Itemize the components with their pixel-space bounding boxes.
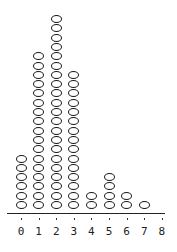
x-tick — [162, 218, 163, 220]
data-dot — [68, 136, 79, 144]
x-tick-label: 1 — [32, 225, 46, 238]
data-dot — [16, 201, 27, 209]
data-dot — [51, 145, 62, 153]
data-dot — [33, 192, 44, 200]
data-dot — [68, 127, 79, 135]
x-tick — [21, 218, 22, 220]
data-dot — [104, 182, 115, 190]
x-axis-line — [7, 213, 165, 214]
data-dot — [33, 71, 44, 79]
x-tick — [144, 218, 145, 220]
data-dot — [51, 24, 62, 32]
x-tick — [74, 218, 75, 220]
data-dot — [33, 127, 44, 135]
data-dot — [121, 192, 132, 200]
data-dot — [33, 80, 44, 88]
data-dot — [51, 136, 62, 144]
x-tick-label: 2 — [49, 225, 63, 238]
data-dot — [51, 192, 62, 200]
data-dot — [33, 155, 44, 163]
data-dot — [33, 201, 44, 209]
data-dot — [51, 155, 62, 163]
data-dot — [51, 182, 62, 190]
data-dot — [33, 145, 44, 153]
data-dot — [33, 117, 44, 125]
x-tick — [39, 218, 40, 220]
x-tick-label: 8 — [155, 225, 169, 238]
data-dot — [51, 99, 62, 107]
data-dot — [68, 145, 79, 153]
data-dot — [33, 62, 44, 70]
data-dot — [16, 173, 27, 181]
data-dot — [51, 108, 62, 116]
data-dot — [51, 15, 62, 23]
x-tick-label: 6 — [120, 225, 134, 238]
data-dot — [51, 71, 62, 79]
data-dot — [68, 99, 79, 107]
data-dot — [86, 201, 97, 209]
data-dot — [33, 89, 44, 97]
data-dot — [16, 155, 27, 163]
data-dot — [51, 80, 62, 88]
data-dot — [68, 192, 79, 200]
data-dot — [104, 201, 115, 209]
data-dot — [51, 52, 62, 60]
data-dot — [16, 182, 27, 190]
x-tick-label: 0 — [14, 225, 28, 238]
x-tick — [91, 218, 92, 220]
data-dot — [68, 80, 79, 88]
data-dot — [16, 192, 27, 200]
data-dot — [33, 182, 44, 190]
x-tick-label: 7 — [137, 225, 151, 238]
data-dot — [121, 201, 132, 209]
data-dot — [51, 117, 62, 125]
data-dot — [51, 43, 62, 51]
x-tick — [56, 218, 57, 220]
data-dot — [68, 201, 79, 209]
data-dot — [68, 182, 79, 190]
data-dot — [33, 173, 44, 181]
data-dot — [68, 117, 79, 125]
data-dot — [51, 127, 62, 135]
data-dot — [104, 173, 115, 181]
data-dot — [33, 164, 44, 172]
x-tick-label: 4 — [84, 225, 98, 238]
data-dot — [68, 155, 79, 163]
data-dot — [68, 71, 79, 79]
data-dot — [51, 62, 62, 70]
data-dot — [51, 201, 62, 209]
data-dot — [86, 192, 97, 200]
data-dot — [33, 99, 44, 107]
data-dot — [139, 201, 150, 209]
data-dot — [51, 173, 62, 181]
x-tick — [127, 218, 128, 220]
data-dot — [68, 164, 79, 172]
data-dot — [68, 89, 79, 97]
x-tick-label: 3 — [67, 225, 81, 238]
data-dot — [104, 192, 115, 200]
data-dot — [51, 89, 62, 97]
data-dot — [33, 108, 44, 116]
x-tick — [109, 218, 110, 220]
data-dot — [68, 108, 79, 116]
x-tick-label: 5 — [102, 225, 116, 238]
data-dot — [51, 164, 62, 172]
data-dot — [68, 173, 79, 181]
dot-plot: 012345678 — [0, 0, 177, 252]
data-dot — [16, 164, 27, 172]
data-dot — [51, 34, 62, 42]
data-dot — [33, 136, 44, 144]
data-dot — [33, 52, 44, 60]
